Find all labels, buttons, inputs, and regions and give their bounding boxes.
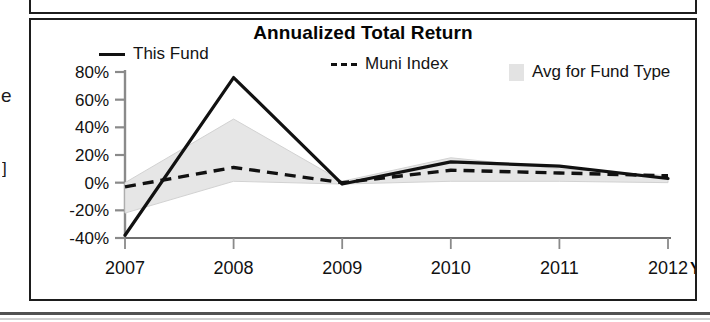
x-axis-tick-label: 2012 [648, 258, 688, 278]
page-separator-rule-secondary [0, 318, 710, 320]
y-axis-tick-label: 80% [75, 63, 109, 82]
scanned-page-root: e ] Annualized Total Return This Fund Mu… [0, 0, 710, 322]
x-axis-tick-marks [125, 238, 668, 249]
x-axis-tick-label: 2009 [322, 258, 362, 278]
page-separator-rule [0, 312, 710, 315]
x-axis-tick-labels: 200720082009201020112012 [105, 258, 688, 278]
y-axis-tick-label: 60% [75, 91, 109, 110]
y-axis-tick-label: 40% [75, 118, 109, 137]
clipped-text-fragment-left-upper: e [1, 86, 15, 105]
y-axis-tick-marks [115, 72, 125, 238]
x-axis-tick-label: 2008 [214, 258, 254, 278]
chart-plot-svg: 80%60%40%20%0%-20%-40% 20072008200920102… [31, 20, 695, 299]
y-axis-tick-label: 20% [75, 146, 109, 165]
x-axis-tick-label: 2010 [431, 258, 471, 278]
adjacent-panel-frame [29, 0, 697, 14]
x-axis-ytd-label: YTD [690, 260, 695, 277]
plot-area: 80%60%40%20%0%-20%-40% 20072008200920102… [31, 20, 695, 299]
clipped-text-fragment-left-lower: ] [2, 160, 14, 177]
x-axis-tick-label: 2011 [540, 258, 579, 278]
y-axis-tick-label: -40% [69, 229, 109, 248]
y-axis-tick-label: -20% [69, 201, 109, 220]
y-axis-tick-label: 0% [84, 174, 109, 193]
x-axis-tick-label: 2007 [105, 258, 145, 278]
y-axis-tick-labels: 80%60%40%20%0%-20%-40% [69, 63, 109, 248]
avg-for-fund-type-band [125, 119, 668, 213]
annualized-total-return-chart-panel: Annualized Total Return This Fund Muni I… [29, 18, 697, 301]
